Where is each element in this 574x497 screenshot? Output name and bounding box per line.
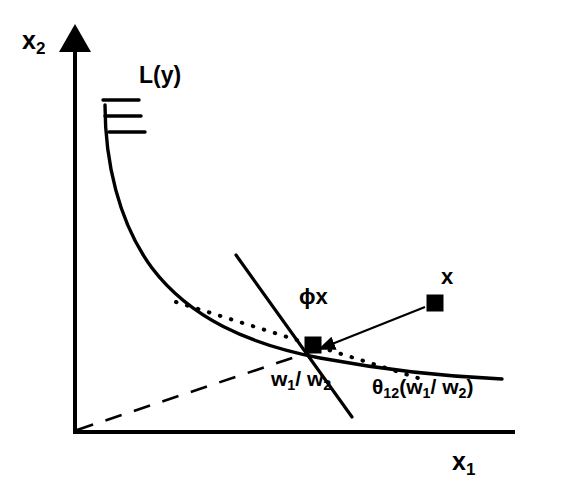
projection-arrow <box>332 307 425 344</box>
isoquant-label: L(y) <box>139 64 181 87</box>
shadow-open-paren-w: (w <box>399 375 422 398</box>
isoquant-curve <box>105 105 502 379</box>
shadow-sub-1: 1 <box>423 385 431 401</box>
price-ratio-w: w <box>271 367 287 390</box>
hatch-marks-group <box>103 100 145 132</box>
phi-x-marker[interactable] <box>305 337 322 354</box>
projected-point-label: ϕx <box>299 286 328 308</box>
diagram-canvas <box>0 0 574 497</box>
isoquant-figure: x2 x1 L(y) ϕx x w1/ w2 θ12(w1/ w2) <box>0 0 574 497</box>
y-axis-label-subscript: 2 <box>36 39 45 58</box>
x-axis-label-text: x <box>452 447 466 475</box>
price-ratio-divider: / w <box>295 367 323 390</box>
shadow-price-ratio-label: θ12(w1/ w2) <box>372 376 473 397</box>
price-ratio-label: w1/ w2 <box>271 368 331 389</box>
shadow-divider: / w <box>431 375 459 398</box>
x-axis-label: x1 <box>452 449 475 474</box>
shadow-theta-sub: 12 <box>383 385 399 401</box>
price-ratio-sub-2: 2 <box>323 377 331 393</box>
shadow-sub-2: 2 <box>459 385 467 401</box>
observed-point-label: x <box>441 266 453 288</box>
x-axis-label-subscript: 1 <box>466 460 475 479</box>
y-axis-label: x2 <box>22 28 45 53</box>
shadow-theta: θ <box>372 375 383 398</box>
shadow-close-paren: ) <box>466 375 473 398</box>
y-axis-label-text: x <box>22 26 36 54</box>
price-ratio-sub-1: 1 <box>287 377 295 393</box>
x-marker[interactable] <box>427 295 444 312</box>
